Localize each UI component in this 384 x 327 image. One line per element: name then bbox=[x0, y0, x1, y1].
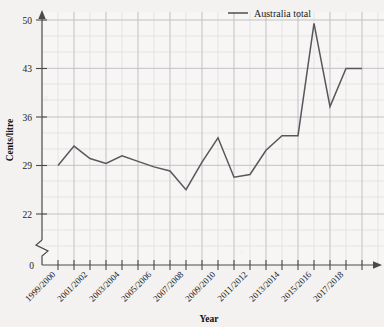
x-tick-label-1: 2001/2002 bbox=[55, 269, 89, 303]
x-tick-label-2: 2003/2004 bbox=[87, 269, 122, 304]
x-tick-label-0: 1999/2000 bbox=[23, 269, 58, 304]
y-tick-label-50: 50 bbox=[23, 16, 33, 26]
x-tick-label-6: 2011/2012 bbox=[215, 269, 249, 303]
y-tick-label-22: 22 bbox=[23, 210, 33, 220]
plot-background bbox=[42, 12, 384, 265]
x-tick-label-5: 2009/2010 bbox=[183, 269, 218, 304]
chart-figure: 50 43 36 29 22 0 bbox=[0, 0, 384, 327]
y-tick-label-29: 29 bbox=[23, 161, 33, 171]
chart-svg: 50 43 36 29 22 0 bbox=[0, 0, 384, 327]
x-tick-label-9: 2017/2018 bbox=[311, 269, 346, 304]
y-tick-label-43: 43 bbox=[23, 64, 33, 74]
y-tick-label-36: 36 bbox=[23, 113, 33, 123]
y-axis-title: Cents/litre bbox=[5, 119, 15, 162]
x-tick-label-3: 2005/2006 bbox=[119, 269, 154, 304]
legend-label-australia-total: Australia total bbox=[254, 8, 311, 19]
x-tick-label-8: 2015/2016 bbox=[279, 269, 314, 304]
x-tick-label-4: 2007/2008 bbox=[151, 269, 186, 304]
x-axis-title: Year bbox=[200, 314, 220, 324]
y-tick-label-0: 0 bbox=[29, 261, 34, 271]
x-tick-label-7: 2013/2014 bbox=[247, 269, 282, 304]
x-axis-tick-labels: 1999/2000 2001/2002 2003/2004 2005/2006 … bbox=[23, 269, 346, 304]
